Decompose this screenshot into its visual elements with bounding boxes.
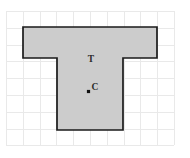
point-label-c: C	[92, 82, 99, 92]
centroid-point-marker	[87, 90, 90, 93]
figure-container: T C	[0, 0, 190, 158]
t-shape-diagram: T C	[0, 0, 190, 158]
shape-label-t: T	[88, 54, 95, 64]
